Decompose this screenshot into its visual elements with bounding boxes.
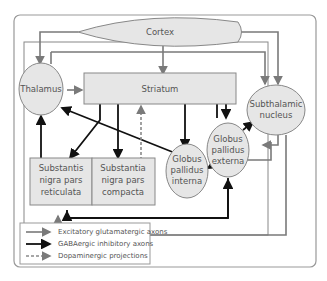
svg-text:nigra pars: nigra pars [39,175,83,185]
svg-text:GABAergic inhibitory axons: GABAergic inhibitory axons [58,240,154,248]
svg-text:Subthalamic: Subthalamic [250,99,303,109]
svg-text:Striatum: Striatum [142,84,179,94]
svg-text:pallidus: pallidus [212,145,245,155]
svg-text:Substantis: Substantis [39,163,84,173]
substantia-nigra-compacta-node: Substantia nigra pars compacta [92,158,155,205]
svg-text:Globus: Globus [172,154,202,164]
substantia-nigra-reticulata-node: Substantis nigra pars reticulata [30,158,92,205]
svg-text:Excitatory glutamatergic axons: Excitatory glutamatergic axons [58,228,168,236]
svg-text:Thalamus: Thalamus [19,84,62,94]
subthalamic-nucleus-node: Subthalamic nucleus [247,85,305,135]
svg-text:compacta: compacta [102,187,144,197]
svg-text:interna: interna [172,176,202,186]
svg-text:Dopaminergic projections: Dopaminergic projections [58,252,148,260]
striatum-node: Striatum [84,73,236,104]
thalamus-node: Thalamus [19,63,63,115]
globus-pallidus-interna-node: Globus pallidus interna [166,144,208,198]
legend: Excitatory glutamatergic axons GABAergic… [20,223,168,264]
svg-text:Globus: Globus [213,134,243,144]
svg-text:pallidus: pallidus [171,165,204,175]
svg-text:Cortex: Cortex [146,27,174,37]
basal-ganglia-diagram: Cortex Thalamus Striatum Subthalamic nuc… [0,0,327,281]
globus-pallidus-externa-node: Globus pallidus externa [207,123,249,177]
svg-text:nigra pars: nigra pars [101,175,145,185]
svg-text:nucleus: nucleus [260,110,293,120]
svg-text:Substantia: Substantia [100,163,145,173]
svg-text:reticulata: reticulata [41,187,81,197]
svg-text:externa: externa [212,156,245,166]
